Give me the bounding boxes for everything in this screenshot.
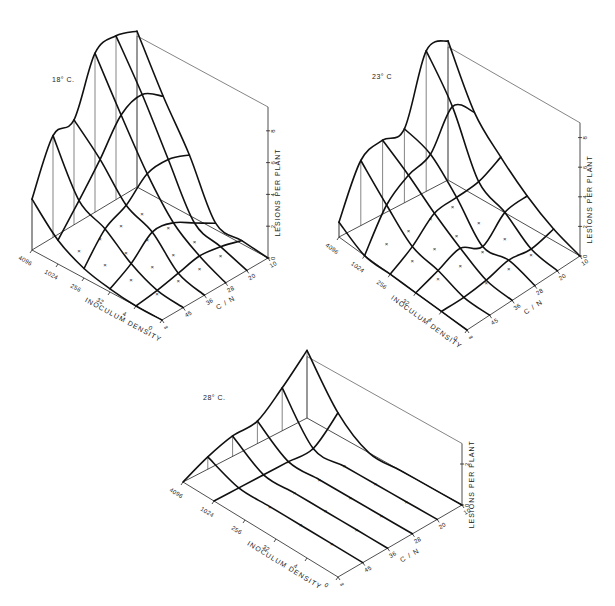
back-wall-top-edge	[137, 36, 268, 107]
surface-curve-inoculum	[404, 129, 534, 286]
cn-tick-label: 36	[205, 297, 215, 306]
surface-curve-inoculum	[383, 140, 513, 300]
panel-title-23c: 23° C	[372, 73, 392, 80]
inoculum-tick-label: 4096	[324, 242, 340, 256]
inoculum-tick	[82, 278, 84, 281]
grid-mark: ×	[411, 258, 415, 264]
grid-mark: ×	[77, 248, 81, 254]
cn-tick	[338, 577, 340, 580]
grid-mark: ×	[385, 241, 389, 247]
inoculum-tick	[336, 577, 338, 580]
surface-curve-inoculum	[307, 350, 462, 505]
z-tick-label: 8	[270, 129, 276, 133]
cn-tick-label: 20	[247, 272, 257, 281]
inoculum-tick-label: 256	[376, 279, 389, 290]
inoculum-tick	[274, 539, 276, 542]
inoculum-tick	[30, 250, 32, 253]
inoculum-tick	[337, 237, 339, 240]
grid-mark: ×	[219, 253, 223, 259]
z-tick-label: 8	[582, 136, 588, 140]
grid-mark: ×	[172, 252, 176, 258]
cn-tick-label: ∞	[162, 323, 169, 330]
inoculum-tick-label: 1024	[199, 506, 215, 519]
inoculum-tick	[108, 292, 110, 295]
back-wall-top-edge	[448, 47, 580, 123]
grid-mark: ×	[150, 264, 154, 270]
surface-curve-cn	[441, 229, 553, 311]
surface-curve-cn	[390, 157, 501, 274]
cn-tick-label: 36	[388, 550, 398, 559]
grid-mark: ×	[477, 220, 481, 226]
figure-canvas: 02468LESIONS PER PLANT409610242563240INO…	[0, 0, 615, 606]
inoculum-tick-label: 256	[230, 525, 243, 536]
grid-mark: ×	[481, 249, 485, 255]
panel-28c: 02LESIONS PER PLANT409610242563240INOCUL…	[168, 350, 475, 590]
panel-title-28c: 28° C.	[203, 394, 226, 401]
inoculum-tick	[243, 520, 245, 523]
z-tick-label: 0	[270, 256, 276, 260]
z-axis-title: LESIONS PER PLANT	[274, 148, 281, 236]
grid-mark: ×	[103, 262, 107, 268]
surface-curve-cn	[136, 241, 242, 306]
inoculum-axis-title: INOCULUM DENSITY	[84, 296, 163, 343]
surface-curve-inoculum	[137, 31, 268, 258]
grid-mark: ×	[529, 252, 533, 258]
grid-mark: ×	[129, 277, 133, 283]
inoculum-tick-label: 1024	[44, 269, 60, 281]
z-tick-label: 0	[582, 254, 588, 258]
grid-mark: ×	[451, 204, 455, 210]
grid-mark: ×	[119, 223, 123, 229]
grid-mark: ×	[459, 263, 463, 269]
grid-mark: ×	[407, 228, 411, 234]
cn-tick-label: ∞	[467, 333, 474, 341]
cn-tick-label: 45	[363, 564, 373, 573]
cn-axis-title: C / N	[399, 547, 421, 564]
grid-mark: ×	[436, 276, 440, 282]
grid-mark: ×	[140, 211, 144, 217]
inoculum-axis-title: INOCULUM DENSITY	[246, 540, 323, 591]
grid-mark: ×	[198, 266, 202, 272]
cn-axis-title: C / N	[523, 298, 544, 315]
surface-curve-inoculum	[339, 222, 467, 330]
inoculum-tick-label: 4096	[18, 255, 34, 267]
cn-axis-title: C / N	[215, 294, 237, 311]
inoculum-tick	[305, 558, 307, 561]
cn-tick-label: 28	[413, 536, 423, 545]
cn-tick-label: 20	[438, 521, 448, 530]
cn-tick-label: 10	[268, 260, 278, 269]
grid-mark: ×	[507, 266, 511, 272]
cn-tick-label: ∞	[338, 580, 345, 587]
grid-mark: ×	[177, 278, 181, 284]
grid-mark: ×	[433, 246, 437, 252]
z-axis-title: LESIONS PER PLANT	[586, 155, 593, 243]
cn-tick-label: 28	[226, 285, 236, 294]
cn-tick-label: 45	[184, 309, 194, 318]
surface-curve-inoculum	[426, 51, 557, 271]
inoculum-tick	[56, 264, 58, 267]
inoculum-tick-label: 256	[70, 283, 83, 294]
panel-23c: 02468LESIONS PER PLANT409610242563240INO…	[324, 41, 593, 350]
grid-mark: ×	[193, 239, 197, 245]
surface-curve-inoculum	[448, 41, 580, 256]
z-axis-title: LESIONS PER PLANT	[468, 440, 475, 528]
grid-mark: ×	[503, 236, 507, 242]
inoculum-axis-title: INOCULUM DENSITY	[390, 294, 463, 350]
grid-mark: ×	[167, 225, 171, 231]
inoculum-tick-label: 4096	[168, 487, 184, 500]
grid-mark: ×	[455, 233, 459, 239]
inoculum-tick-label: 0	[323, 582, 330, 589]
inoculum-tick-label: 1024	[350, 261, 366, 275]
surface-curve-cn	[214, 413, 338, 501]
surface-curve-inoculum	[208, 457, 363, 563]
panel-title-18c: 18° C.	[52, 76, 75, 83]
